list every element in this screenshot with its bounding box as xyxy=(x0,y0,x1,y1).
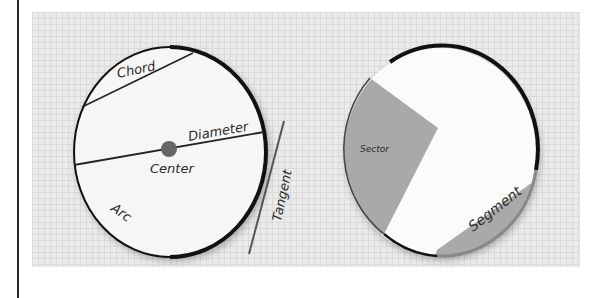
sector-label: Sector xyxy=(360,144,390,154)
tangent-label: Tangent xyxy=(269,167,295,222)
circle-diagram: Chord Diameter Center Arc Tangent Sector… xyxy=(0,0,604,298)
left-circle: Chord Diameter Center Arc Tangent xyxy=(74,47,295,257)
center-label: Center xyxy=(150,161,195,176)
right-circle: Sector Segment xyxy=(320,46,540,270)
center-dot xyxy=(161,141,177,157)
